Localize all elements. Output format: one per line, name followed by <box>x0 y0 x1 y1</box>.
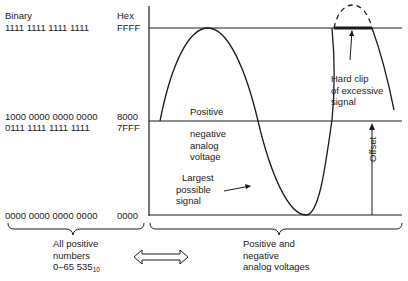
hex-header: Hex <box>117 10 134 21</box>
excessive-signal-dashed <box>334 5 372 28</box>
positive-label: Positive <box>190 106 223 117</box>
hex-8000: 8000 <box>117 111 138 122</box>
double-arrow-icon <box>134 250 188 264</box>
hex-zero: 0000 <box>117 210 138 221</box>
hex-7fff: 7FFF <box>117 122 140 133</box>
largest-signal-label: Largest possible signal <box>176 172 214 207</box>
negative-voltage-label: negative analog voltage <box>190 128 226 163</box>
left-brace <box>8 223 144 235</box>
binary-8000: 1000 0000 0000 0000 <box>5 111 97 122</box>
clip-label: Hard clip of excessive signal <box>331 73 383 108</box>
binary-header: Binary <box>5 10 32 21</box>
offset-label: Offset <box>367 137 378 162</box>
binary-max: 1111 1111 1111 1111 <box>5 22 89 33</box>
hex-max: FFFF <box>117 22 140 33</box>
right-brace <box>150 223 402 235</box>
analog-voltages-label: Positive and negative analog voltages <box>243 238 310 273</box>
binary-zero: 0000 0000 0000 0000 <box>5 210 97 221</box>
binary-7fff: 0111 1111 1111 1111 <box>5 122 90 133</box>
all-positive-label: All positive numbers 0–65 53510 <box>53 238 100 276</box>
